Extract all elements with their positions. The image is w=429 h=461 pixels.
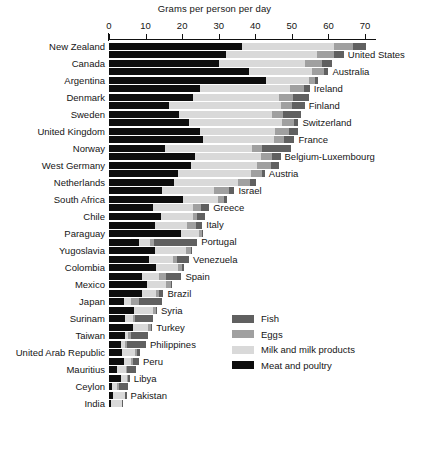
- stacked-bar[interactable]: [109, 119, 298, 126]
- bar-label-chile: Chile: [83, 212, 105, 221]
- chart-bar-row[interactable]: United Kingdom: [0, 127, 429, 136]
- stacked-bar[interactable]: [109, 128, 298, 135]
- stacked-bar[interactable]: [109, 187, 234, 194]
- stacked-bar[interactable]: [109, 375, 130, 382]
- chart-bar-row[interactable]: India: [0, 400, 429, 409]
- x-axis-tick: [292, 34, 293, 40]
- bar-label-portugal: Portugal: [201, 237, 236, 246]
- bar-segment-eggs: [187, 222, 196, 229]
- stacked-bar[interactable]: [109, 196, 227, 203]
- chart-bar-row[interactable]: Colombia: [0, 264, 429, 273]
- chart-bar-row[interactable]: Sweden: [0, 110, 429, 119]
- bar-segment-meat: [109, 247, 155, 254]
- bar-segment-milk: [155, 222, 188, 229]
- chart-bar-row[interactable]: France: [0, 136, 429, 145]
- chart-bar-row[interactable]: Japan: [0, 298, 429, 307]
- stacked-bar[interactable]: [109, 85, 310, 92]
- chart-bar-row[interactable]: Brazil: [0, 289, 429, 298]
- x-axis-tick: [328, 34, 329, 40]
- stacked-bar[interactable]: [109, 239, 197, 246]
- stacked-bar[interactable]: [109, 298, 162, 305]
- bar-label-finland: Finland: [309, 101, 340, 110]
- stacked-bar[interactable]: [109, 204, 209, 211]
- legend-item[interactable]: Eggs: [232, 327, 422, 343]
- bar-segment-meat: [109, 196, 183, 203]
- chart-bar-row[interactable]: Greece: [0, 204, 429, 213]
- stacked-bar[interactable]: [109, 392, 127, 399]
- legend-swatch: [232, 315, 254, 323]
- stacked-bar[interactable]: [109, 213, 205, 220]
- bar-segment-fish: [334, 51, 344, 58]
- bar-segment-meat: [109, 187, 162, 194]
- stacked-bar[interactable]: [109, 170, 265, 177]
- stacked-bar[interactable]: [109, 307, 157, 314]
- bar-segment-milk: [134, 307, 153, 314]
- stacked-bar[interactable]: [109, 222, 202, 229]
- stacked-bar[interactable]: [109, 315, 153, 322]
- chart-bar-row[interactable]: Pakistan: [0, 391, 429, 400]
- stacked-bar[interactable]: [109, 162, 279, 169]
- chart-bar-row[interactable]: Mexico: [0, 281, 429, 290]
- stacked-bar[interactable]: [109, 247, 192, 254]
- stacked-bar[interactable]: [109, 179, 256, 186]
- chart-bar-row[interactable]: West Germany: [0, 161, 429, 170]
- x-axis-tick: [219, 34, 220, 40]
- bar-segment-fish: [191, 247, 192, 254]
- stacked-bar[interactable]: [109, 51, 344, 58]
- stacked-bar[interactable]: [109, 230, 203, 237]
- stacked-bar[interactable]: [109, 77, 318, 84]
- bar-segment-meat: [109, 290, 142, 297]
- stacked-bar[interactable]: [109, 153, 281, 160]
- stacked-bar[interactable]: [109, 102, 305, 109]
- chart-bar-row[interactable]: Netherlands: [0, 178, 429, 187]
- legend-swatch: [232, 346, 254, 354]
- stacked-bar[interactable]: [109, 111, 301, 118]
- bar-label-netherlands: Netherlands: [54, 178, 105, 187]
- stacked-bar[interactable]: [109, 256, 189, 263]
- bar-segment-fish: [154, 239, 197, 246]
- chart-bar-row[interactable]: Denmark: [0, 93, 429, 102]
- legend-item[interactable]: Milk and milk products: [232, 342, 422, 358]
- stacked-bar[interactable]: [109, 145, 291, 152]
- bar-segment-fish: [272, 153, 280, 160]
- bar-segment-milk: [125, 315, 132, 322]
- legend-item[interactable]: Meat and poultry: [232, 358, 422, 374]
- stacked-bar[interactable]: [109, 290, 163, 297]
- stacked-bar[interactable]: [109, 43, 366, 50]
- stacked-bar[interactable]: [109, 400, 123, 407]
- stacked-bar[interactable]: [109, 332, 148, 339]
- bar-segment-milk: [142, 290, 156, 297]
- bar-segment-fish: [197, 213, 205, 220]
- bar-segment-fish: [292, 102, 304, 109]
- stacked-bar[interactable]: [109, 358, 139, 365]
- stacked-bar[interactable]: [109, 136, 294, 143]
- stacked-bar[interactable]: [109, 281, 172, 288]
- stacked-bar[interactable]: [109, 324, 152, 331]
- chart-bar-row[interactable]: United States: [0, 51, 429, 60]
- chart-bar-row[interactable]: Libya: [0, 374, 429, 383]
- chart-bar-row[interactable]: Spain: [0, 272, 429, 281]
- bar-segment-milk: [113, 392, 125, 399]
- x-axis-tick-label: 50: [287, 20, 298, 31]
- bar-label-turkey: Turkey: [156, 323, 185, 332]
- bar-segment-meat: [109, 102, 169, 109]
- stacked-bar[interactable]: [109, 60, 332, 67]
- bar-segment-eggs: [252, 145, 262, 152]
- stacked-bar[interactable]: [109, 264, 184, 271]
- chart-bar-row[interactable]: Ceylon: [0, 383, 429, 392]
- stacked-bar[interactable]: [109, 349, 140, 356]
- bar-segment-meat: [109, 77, 266, 84]
- legend-item[interactable]: Fish: [232, 311, 422, 327]
- chart-bar-row[interactable]: Argentina: [0, 76, 429, 85]
- bar-segment-eggs: [214, 187, 229, 194]
- chart-bar-row[interactable]: Finland: [0, 102, 429, 111]
- bar-segment-meat: [109, 204, 153, 211]
- stacked-bar[interactable]: [109, 273, 181, 280]
- stacked-bar[interactable]: [109, 341, 146, 348]
- stacked-bar[interactable]: [109, 68, 328, 75]
- stacked-bar[interactable]: [109, 94, 309, 101]
- stacked-bar[interactable]: [109, 366, 136, 373]
- chart-bar-row[interactable]: Ireland: [0, 85, 429, 94]
- stacked-bar[interactable]: [109, 383, 128, 390]
- bar-segment-fish: [137, 349, 141, 356]
